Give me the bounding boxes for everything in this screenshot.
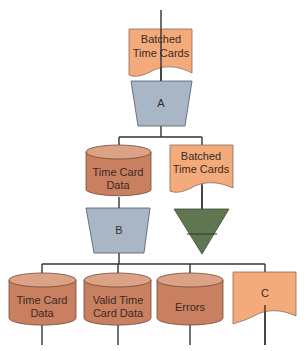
label: Data <box>30 307 54 319</box>
label: Time Card <box>93 166 144 178</box>
label: Batched <box>141 33 181 45</box>
document-batched-time-cards-top: Batched Time Cards <box>129 29 192 81</box>
label: Batched <box>181 150 221 162</box>
offline-storage-triangle <box>174 209 229 254</box>
flowchart: Batched Time Cards A Time Card Data Batc… <box>0 0 308 351</box>
label: C <box>261 287 269 299</box>
label: Errors <box>175 301 205 313</box>
label: Time Cards <box>173 163 230 175</box>
label: Time Cards <box>133 47 190 59</box>
disk-time-card-data: Time Card Data <box>9 273 76 325</box>
label: A <box>157 97 165 109</box>
label: Time Card <box>17 294 68 306</box>
label: Card Data <box>93 307 144 319</box>
disk-time-card-data-mid: Time Card Data <box>86 145 151 196</box>
label: Valid Time <box>93 294 144 306</box>
disk-valid-time-card-data: Valid Time Card Data <box>84 273 151 325</box>
label: B <box>115 224 122 236</box>
document-batched-time-cards-mid: Batched Time Cards <box>170 145 233 209</box>
disk-errors: Errors <box>157 273 223 325</box>
label: Data <box>106 179 130 191</box>
process-b: B <box>86 208 150 253</box>
document-c: C <box>233 272 296 345</box>
process-a: A <box>131 81 192 126</box>
